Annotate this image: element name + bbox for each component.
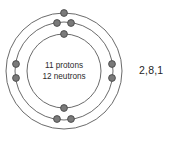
electron-middle-bottom-left xyxy=(54,116,61,123)
electron-middle-top-left xyxy=(54,20,61,27)
electron-middle-right-lower xyxy=(109,75,116,82)
electron-configuration-label: 2,8,1 xyxy=(139,64,163,76)
electron-outer-top xyxy=(61,10,68,17)
electron-middle-right-upper xyxy=(109,61,116,68)
electron-middle-top-right xyxy=(68,20,75,27)
electron-middle-bottom-right xyxy=(68,116,75,123)
electron-middle-left-lower xyxy=(13,75,20,82)
electron-inner-bottom xyxy=(61,105,68,112)
nucleus-neutrons-label: 12 neutrons xyxy=(42,72,85,81)
electron-middle-left-upper xyxy=(13,61,20,68)
nucleus-protons-label: 11 protons xyxy=(45,61,83,70)
bohr-atom-diagram: 11 protons 12 neutrons 2,8,1 xyxy=(0,0,180,141)
electron-inner-top xyxy=(61,31,68,38)
